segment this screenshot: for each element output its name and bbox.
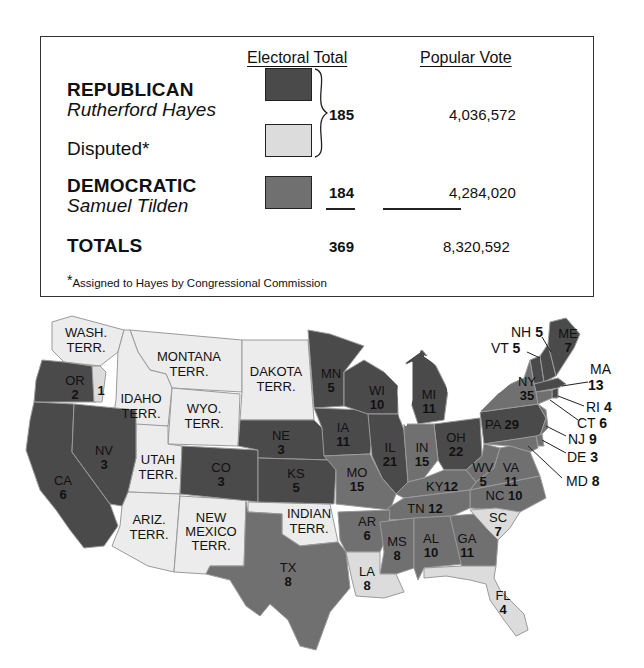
label-de: DE 3	[567, 449, 598, 465]
popular-sum-rule	[383, 208, 461, 210]
label-pa: PA 29	[485, 417, 519, 432]
ariz-terr-label: ARIZ.TERR.	[130, 512, 169, 542]
brace-icon	[313, 67, 329, 159]
indian-terr-label: INDIANTERR.	[287, 506, 331, 536]
totals-label: TOTALS	[67, 235, 142, 257]
totals-popular: 8,320,592	[443, 238, 510, 255]
republican-label: REPUBLICAN	[67, 79, 194, 101]
footnote-text: Assigned to Hayes by Congressional Commi…	[72, 277, 326, 289]
label-ia: IA11	[336, 420, 350, 449]
label-ma-abbr: MA	[590, 361, 612, 377]
tilden-popular: 4,284,020	[449, 184, 516, 201]
label-or-disputed: 1	[97, 383, 104, 398]
lake-superior	[356, 338, 420, 362]
totals-electoral: 369	[329, 238, 354, 255]
label-nj: NJ 9	[568, 431, 597, 447]
idaho-terr-label: IDAHOTERR.	[120, 391, 161, 421]
disputed-label: Disputed*	[67, 138, 149, 160]
wash-terr-label: WASH.TERR.	[65, 325, 107, 355]
label-ny: NY35	[518, 374, 536, 403]
label-nc: NC 10	[486, 488, 523, 503]
label-il: IL21	[383, 440, 397, 469]
label-mi: MI11	[422, 387, 436, 416]
disputed-swatch	[265, 124, 312, 157]
label-ky: KY12	[426, 479, 458, 494]
label-tn: TN 12	[407, 501, 442, 516]
popular-vote-header: Popular Vote	[420, 49, 512, 67]
democratic-label: DEMOCRATIC	[67, 175, 196, 197]
state-ct	[536, 390, 552, 404]
electoral-sum-rule	[326, 208, 355, 210]
state-ri	[552, 388, 558, 398]
lake-michigan	[398, 362, 412, 426]
wyo-terr-label: WYO.TERR.	[185, 401, 224, 431]
dakota-terr-label: DAKOTATERR.	[250, 364, 303, 394]
label-ct: CT 6	[577, 415, 607, 431]
label-ma-votes: 13	[588, 377, 604, 393]
republican-swatch	[265, 68, 312, 101]
label-oh: OH22	[446, 430, 466, 459]
label-va: VA11	[503, 460, 520, 489]
tilden-electoral: 184	[329, 184, 354, 201]
hayes-label: Rutherford Hayes	[67, 99, 216, 121]
label-nh: NH 5	[511, 324, 543, 340]
legend-box: Electoral Total Popular Vote REPUBLICAN …	[40, 36, 594, 297]
label-ri: RI 4	[586, 399, 612, 415]
label-md: MD 8	[566, 473, 600, 489]
state-fl	[424, 566, 528, 636]
democratic-swatch	[265, 176, 312, 209]
hayes-electoral: 185	[329, 106, 354, 123]
label-in: IN15	[415, 440, 429, 469]
label-vt: VT 5	[491, 340, 521, 356]
electoral-map: WASH.TERR. MONTANATERR. DAKOTATERR. IDAH…	[0, 300, 644, 668]
electoral-total-header: Electoral Total	[247, 49, 347, 67]
tilden-label: Samuel Tilden	[67, 195, 188, 217]
hayes-popular: 4,036,572	[449, 106, 516, 123]
label-al: AL10	[423, 531, 439, 560]
footnote: *Assigned to Hayes by Congressional Comm…	[67, 272, 327, 289]
utah-terr-label: UTAHTERR.	[139, 452, 178, 482]
label-ga: GA11	[458, 531, 477, 560]
label-wi: WI10	[369, 383, 385, 412]
